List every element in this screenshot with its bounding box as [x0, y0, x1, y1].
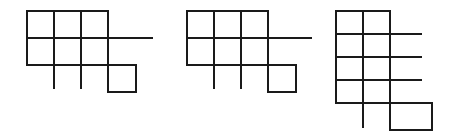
line-figures-canvas — [0, 0, 452, 140]
canvas-background — [0, 0, 452, 140]
figure-canvas-container — [0, 0, 452, 140]
